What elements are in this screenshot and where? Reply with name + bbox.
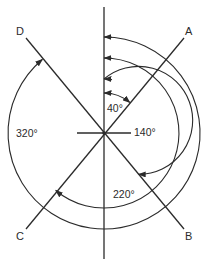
angle-label-320: 320° (16, 127, 38, 139)
label-A: A (185, 25, 193, 37)
arc-140-start-arrow (105, 79, 113, 80)
arc-40-start-arrow (105, 93, 113, 94)
angle-label-220: 220° (113, 188, 135, 200)
label-C: C (16, 230, 24, 242)
label-D: D (16, 25, 24, 37)
arc-40 (104, 93, 130, 102)
center-point (102, 131, 106, 135)
arc-140 (104, 66, 193, 174)
angle-label-40: 40° (107, 102, 123, 114)
angle-label-140: 140° (134, 126, 156, 138)
bearing-diagram: A B C D 40° 140° 220° 320° (0, 0, 206, 267)
label-B: B (185, 230, 192, 242)
